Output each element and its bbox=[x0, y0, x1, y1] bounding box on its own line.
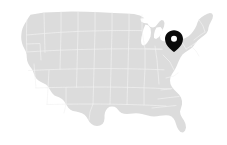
us-location-map-widget[interactable]: United States location map Contiguous Un… bbox=[0, 0, 227, 145]
map-pin-inner-dot bbox=[171, 36, 177, 42]
us-country-shape bbox=[21, 12, 213, 133]
us-map-svg bbox=[0, 0, 227, 145]
us-landmass bbox=[21, 12, 213, 133]
